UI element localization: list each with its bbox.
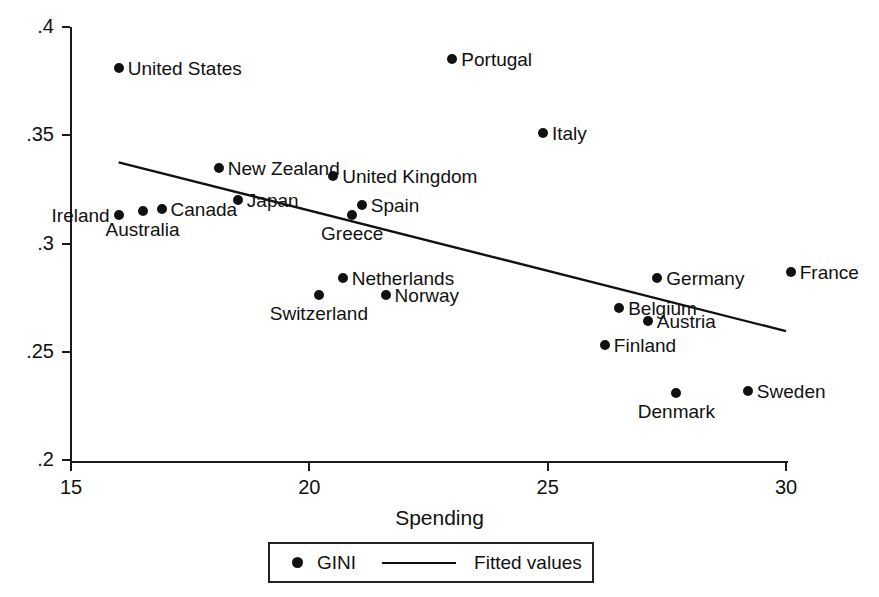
data-point-label: New Zealand: [228, 158, 340, 177]
data-point: [381, 290, 391, 300]
y-tick-label: .25: [26, 341, 54, 361]
y-tick-mark: [62, 351, 70, 353]
data-point-label: France: [800, 262, 859, 281]
legend: GINI Fitted values: [268, 542, 594, 583]
data-point: [614, 303, 624, 313]
data-point-label: United States: [128, 59, 242, 78]
data-point-label: Germany: [666, 269, 744, 288]
legend-gini-marker-icon: [292, 557, 303, 568]
y-tick-mark: [62, 26, 70, 28]
y-tick-label: .4: [37, 16, 54, 36]
y-tick-mark: [62, 459, 70, 461]
data-point: [214, 163, 224, 173]
x-axis-line: [70, 461, 788, 463]
y-tick-label: .3: [37, 233, 54, 253]
data-point: [138, 206, 148, 216]
x-tick-mark: [308, 463, 310, 471]
data-point: [157, 204, 167, 214]
data-point: [671, 388, 681, 398]
y-tick-label: .35: [26, 124, 54, 144]
y-tick-mark: [62, 243, 70, 245]
data-point-label: Norway: [395, 286, 459, 305]
data-point-label: Ireland: [52, 206, 110, 225]
x-tick-mark: [785, 463, 787, 471]
y-tick-label: .2: [37, 449, 54, 469]
data-point-label: Canada: [171, 199, 238, 218]
data-point: [652, 273, 662, 283]
data-point-label: Portugal: [461, 50, 532, 69]
data-point: [538, 128, 548, 138]
data-point: [233, 195, 243, 205]
y-axis-line: [70, 27, 72, 463]
data-point-label: Finland: [614, 336, 676, 355]
data-point: [743, 386, 753, 396]
x-tick-label: 20: [279, 476, 339, 499]
data-point: [328, 171, 338, 181]
data-point-label: Greece: [321, 224, 383, 243]
data-point: [447, 54, 457, 64]
legend-fitted-line-icon: [382, 562, 456, 564]
x-tick-mark: [547, 463, 549, 471]
x-tick-label: 30: [756, 476, 816, 499]
data-point-label: Australia: [106, 220, 180, 239]
data-point-label: Austria: [657, 312, 716, 331]
y-tick-mark: [62, 134, 70, 136]
x-tick-label: 25: [518, 476, 578, 499]
data-point-label: Spain: [371, 195, 420, 214]
data-point-label: Italy: [552, 124, 587, 143]
data-point-label: Switzerland: [270, 304, 368, 323]
data-point: [347, 210, 357, 220]
data-point-label: Denmark: [638, 402, 715, 421]
data-point: [643, 316, 653, 326]
x-axis-title: Spending: [0, 506, 879, 530]
x-tick-label: 15: [41, 476, 101, 499]
legend-fitted-values-label: Fitted values: [474, 552, 582, 574]
legend-gini-label: GINI: [317, 552, 356, 574]
scatter-plot-figure: .4.35.3.25.2 15202530 United StatesIrela…: [0, 0, 879, 597]
data-point: [786, 267, 796, 277]
data-point: [357, 200, 367, 210]
data-point: [114, 63, 124, 73]
data-point: [600, 340, 610, 350]
data-point: [314, 290, 324, 300]
data-point-label: United Kingdom: [342, 167, 477, 186]
data-point: [338, 273, 348, 283]
x-tick-mark: [70, 463, 72, 471]
data-point-label: Sweden: [757, 381, 826, 400]
data-point-label: Japan: [247, 191, 299, 210]
